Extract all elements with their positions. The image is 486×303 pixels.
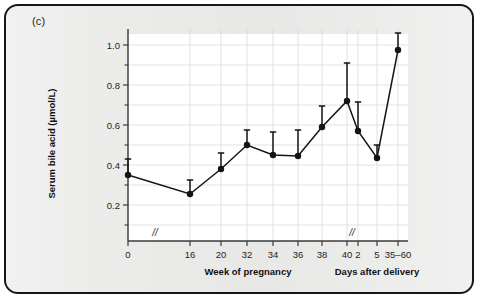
y-tick-label: 0.2: [80, 200, 120, 211]
x-tick-label: 35–60: [385, 249, 411, 260]
x-tick-label: 5: [374, 249, 379, 260]
y-tick-label: 1.0: [80, 40, 120, 51]
axis-break-mark: //: [349, 227, 355, 238]
x-tick-label: 2: [355, 249, 360, 260]
x-tick-label: 32: [242, 249, 253, 260]
x-tick-label: 34: [268, 249, 279, 260]
x-tick-label: 36: [293, 249, 304, 260]
axis-break-mark: //: [152, 227, 158, 238]
figure-panel-c: (c) 0.20.40.60.81.00162032343638402535–6…: [0, 0, 486, 303]
x-tick-label: 40: [342, 249, 353, 260]
x-axis-title-secondary-line1: Days after delivery: [335, 266, 420, 277]
x-axis-title-secondary: Days after delivery: [335, 266, 420, 277]
x-tick-label: 38: [317, 249, 328, 260]
y-tick-label: 0.8: [80, 80, 120, 91]
y-tick-label: 0.4: [80, 160, 120, 171]
y-axis-title: Serum bile acid (µmol/L): [46, 44, 57, 244]
x-tick-label: 16: [185, 249, 196, 260]
x-axis-title: Week of pregnancy: [205, 266, 292, 277]
y-tick-label: 0.6: [80, 120, 120, 131]
x-tick-label: 0: [125, 249, 130, 260]
x-tick-label: 20: [216, 249, 227, 260]
